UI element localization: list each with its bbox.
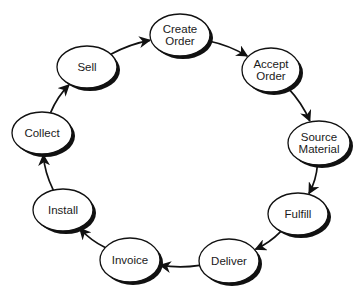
- edge-create-order-to-accept-order: [209, 41, 247, 56]
- node-source-material: SourceMaterial: [288, 121, 353, 168]
- node-label: Invoice: [112, 254, 148, 266]
- edge-source-material-to-fulfill: [309, 165, 317, 194]
- node-label: Deliver: [211, 255, 247, 267]
- node-label: Fulfill: [285, 208, 312, 220]
- node-invoice: Invoice: [100, 238, 163, 285]
- edge-accept-order-to-source-material: [288, 88, 310, 121]
- nodes: CreateOrderAcceptOrderSourceMaterialFulf…: [12, 14, 353, 286]
- node-label: Material: [299, 143, 340, 155]
- node-label: Collect: [24, 127, 60, 139]
- node-accept-order: AcceptOrder: [242, 48, 303, 95]
- node-deliver: Deliver: [199, 239, 262, 286]
- edge-install-to-collect: [43, 155, 53, 190]
- node-install: Install: [33, 189, 96, 234]
- node-label: Order: [256, 70, 286, 82]
- node-label: Accept: [253, 58, 289, 70]
- edge-sell-to-create-order: [111, 40, 150, 54]
- node-label: Source: [301, 131, 337, 143]
- node-label: Install: [48, 204, 78, 216]
- node-fulfill: Fulfill: [268, 193, 331, 238]
- node-collect: Collect: [12, 112, 75, 157]
- edge-invoice-to-install: [80, 229, 105, 248]
- edge-collect-to-sell: [51, 85, 70, 113]
- edge-deliver-to-invoice: [160, 265, 199, 267]
- node-label: Order: [165, 35, 195, 47]
- node-label: Create: [163, 23, 198, 35]
- process-cycle-diagram: CreateOrderAcceptOrderSourceMaterialFulf…: [0, 0, 364, 300]
- node-sell: Sell: [57, 46, 120, 91]
- node-label: Sell: [77, 61, 96, 73]
- edge-fulfill-to-deliver: [256, 231, 281, 249]
- node-create-order: CreateOrder: [150, 14, 213, 59]
